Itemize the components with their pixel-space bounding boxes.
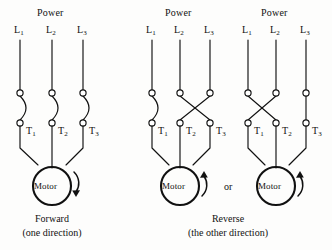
contact-lower-t2-c bbox=[273, 120, 279, 126]
line-label-l3-forward: L3 bbox=[77, 25, 87, 35]
switch-arc-l1 bbox=[20, 96, 26, 120]
contact-upper-l3-b bbox=[207, 90, 213, 96]
terminal-subscript: 1 bbox=[164, 130, 168, 138]
caption-reverse-sub: (the other direction) bbox=[178, 228, 278, 238]
line-subscript: 1 bbox=[248, 29, 252, 37]
switch-arc-l3 bbox=[83, 96, 89, 120]
contact-lower-t3-b bbox=[207, 120, 213, 126]
line-label-l2-reverse-b: L2 bbox=[270, 25, 280, 35]
contact-upper-l2-b bbox=[177, 90, 183, 96]
motor-label-forward: Motor bbox=[34, 182, 57, 191]
line-label-l2-forward: L2 bbox=[46, 25, 56, 35]
terminal-subscript: 2 bbox=[64, 130, 68, 138]
line-subscript: 3 bbox=[306, 29, 310, 37]
or-connector-label: or bbox=[224, 182, 232, 192]
terminal-label-t3-reverse-a: T3 bbox=[216, 126, 226, 136]
terminal-label-t2-forward: T2 bbox=[58, 126, 68, 136]
contact-upper-l1 bbox=[17, 90, 23, 96]
terminal-subscript: 1 bbox=[32, 130, 36, 138]
caption-forward-main: Forward bbox=[22, 214, 82, 224]
caption-forward-sub: (one direction) bbox=[7, 228, 97, 238]
terminal-subscript: 2 bbox=[192, 130, 196, 138]
caption-reverse-main: Reverse bbox=[198, 214, 258, 224]
rotation-arc-reverse-b bbox=[298, 176, 303, 196]
line-label-l1-reverse-a: L1 bbox=[146, 25, 156, 35]
contact-lower-t1 bbox=[17, 120, 23, 126]
contact-upper-l3 bbox=[80, 90, 86, 96]
terminal-label-t3-forward: T3 bbox=[89, 126, 99, 136]
contact-lower-t3-c bbox=[303, 120, 309, 126]
contact-upper-l2 bbox=[49, 90, 55, 96]
terminal-label-t1-forward: T1 bbox=[26, 126, 36, 136]
contact-lower-t2-b bbox=[177, 120, 183, 126]
rotation-arrowhead-forward bbox=[72, 190, 80, 197]
line-label-l2-reverse-a: L2 bbox=[174, 25, 184, 35]
motor-lead-t3 bbox=[66, 126, 83, 165]
line-subscript: 2 bbox=[276, 29, 280, 37]
terminal-label-t3-reverse-b: T3 bbox=[312, 126, 322, 136]
terminal-subscript: 1 bbox=[260, 130, 264, 138]
terminal-label-t1-reverse-a: T1 bbox=[158, 126, 168, 136]
switch-arc-l1-b bbox=[152, 96, 158, 120]
terminal-label-t1-reverse-b: T1 bbox=[254, 126, 264, 136]
rotation-arrowhead-reverse-b bbox=[296, 171, 304, 178]
line-subscript: 2 bbox=[52, 29, 56, 37]
motor-label-reverse-a: Motor bbox=[162, 182, 185, 191]
line-subscript: 3 bbox=[83, 29, 87, 37]
terminal-label-t2-reverse-a: T2 bbox=[186, 126, 196, 136]
motor-label-reverse-b: Motor bbox=[258, 182, 281, 191]
line-label-l1-reverse-b: L1 bbox=[242, 25, 252, 35]
power-label-reverse-b: Power bbox=[261, 8, 288, 18]
rotation-arc-forward bbox=[74, 172, 79, 192]
line-subscript: 2 bbox=[180, 29, 184, 37]
terminal-subscript: 2 bbox=[288, 130, 292, 138]
power-label-reverse-a: Power bbox=[165, 8, 192, 18]
contact-upper-l2-c bbox=[273, 90, 279, 96]
contact-upper-l1-b bbox=[149, 90, 155, 96]
contact-lower-t1-b bbox=[149, 120, 155, 126]
contact-upper-l3-c bbox=[303, 90, 309, 96]
wiring-diagram-figure: Power L1 L2 L3 T1 T2 T3 Motor Forward (o… bbox=[0, 0, 332, 250]
line-subscript: 1 bbox=[20, 29, 24, 37]
rotation-arrowhead-reverse-a bbox=[200, 171, 208, 178]
line-subscript: 1 bbox=[152, 29, 156, 37]
rotation-arc-reverse-a bbox=[202, 176, 207, 196]
power-label-forward: Power bbox=[37, 8, 64, 18]
terminal-subscript: 3 bbox=[95, 130, 99, 138]
line-label-l3-reverse-b: L3 bbox=[300, 25, 310, 35]
terminal-subscript: 3 bbox=[222, 130, 226, 138]
terminal-subscript: 3 bbox=[318, 130, 322, 138]
contact-lower-t1-c bbox=[245, 120, 251, 126]
switch-arc-l2 bbox=[52, 96, 58, 120]
line-label-l1-forward: L1 bbox=[14, 25, 24, 35]
contact-lower-t3 bbox=[80, 120, 86, 126]
contact-upper-l1-c bbox=[245, 90, 251, 96]
terminal-label-t2-reverse-b: T2 bbox=[282, 126, 292, 136]
line-label-l3-reverse-a: L3 bbox=[204, 25, 214, 35]
line-subscript: 3 bbox=[210, 29, 214, 37]
contact-lower-t2 bbox=[49, 120, 55, 126]
